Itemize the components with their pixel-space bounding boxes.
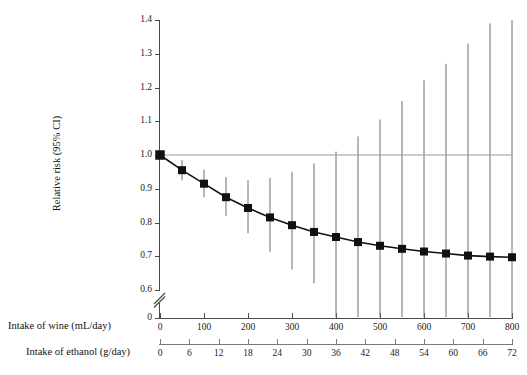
data-point-marker (266, 213, 274, 221)
data-point-marker (486, 253, 494, 261)
data-point-marker (288, 221, 296, 229)
data-point-marker (354, 238, 362, 246)
chart-data-layer (0, 0, 527, 375)
data-point-marker (244, 204, 252, 212)
data-point-marker (332, 233, 340, 241)
data-point-marker (178, 166, 186, 174)
data-point-marker (310, 228, 318, 236)
data-point-marker (442, 250, 450, 258)
data-point-marker (508, 253, 516, 261)
data-point-marker (420, 248, 428, 256)
figure-container: Relative risk (95% CI) 00.60.70.80.91.01… (0, 0, 527, 375)
data-point-marker (398, 245, 406, 253)
data-point-marker (464, 252, 472, 260)
data-point-marker (200, 180, 208, 188)
data-point-marker (155, 150, 165, 160)
data-point-marker (222, 193, 230, 201)
data-point-marker (376, 242, 384, 250)
